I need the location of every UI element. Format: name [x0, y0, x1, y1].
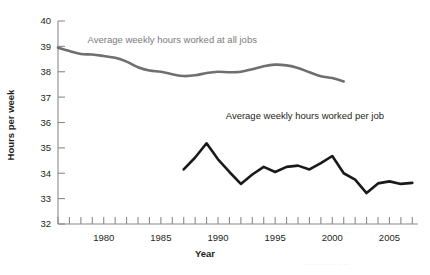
series-line-all-jobs	[58, 48, 344, 82]
x-axis: 198019851990199520002005	[58, 217, 418, 243]
y-tick-label: 37	[40, 92, 51, 103]
series-label-per-job: Average weekly hours worked per job	[226, 110, 384, 121]
y-tick-label: 36	[40, 117, 51, 128]
x-tick-label: 2000	[322, 232, 343, 243]
y-tick-label: 38	[40, 66, 51, 77]
line-chart: 323334353637383940 198019851990199520002…	[0, 0, 430, 275]
x-axis-title: Year	[195, 248, 215, 259]
x-tick-label: 1995	[265, 232, 286, 243]
series-label-all-jobs: Average weekly hours worked at all jobs	[88, 34, 258, 45]
y-tick-label: 40	[40, 15, 51, 26]
x-tick-label: 1985	[150, 232, 171, 243]
y-tick-label: 34	[40, 168, 51, 179]
series-annotations: Average weekly hours worked at all jobsA…	[88, 34, 384, 121]
y-axis-title: Hours per week	[5, 89, 16, 160]
y-tick-label: 33	[40, 193, 51, 204]
series-line-per-job	[184, 143, 413, 193]
x-tick-label: 1990	[207, 232, 228, 243]
y-tick-label: 32	[40, 218, 51, 229]
y-tick-label: 35	[40, 142, 51, 153]
y-tick-label: 39	[40, 41, 51, 52]
chart-container: 323334353637383940 198019851990199520002…	[0, 0, 430, 275]
footer-artifact-text: · ·· ··· · ··· ··· ·· ··· ·	[300, 261, 426, 267]
x-tick-label: 1980	[93, 232, 114, 243]
x-tick-label: 2005	[379, 232, 400, 243]
